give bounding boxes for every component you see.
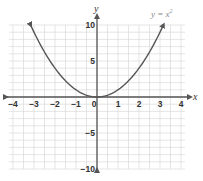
y-tick-label: 10 (86, 20, 96, 30)
x-axis-label: x (192, 91, 198, 102)
x-tick-label: 2 (137, 99, 142, 109)
x-tick-labels: −4−3−2−101234 (8, 99, 183, 109)
x-tick-label: 1 (116, 99, 121, 109)
y-axis-label: y (93, 3, 99, 14)
x-tick-label: −3 (29, 99, 39, 109)
x-tick-label: 4 (179, 99, 184, 109)
y-tick-label: −5 (85, 128, 95, 138)
y-tick-label: −10 (81, 164, 96, 174)
axes (6, 16, 190, 170)
x-tick-label: 0 (92, 99, 97, 109)
function-label: y = x2 (150, 8, 173, 19)
x-tick-label: −4 (8, 99, 18, 109)
x-tick-label: −2 (50, 99, 60, 109)
x-tick-label: 3 (158, 99, 163, 109)
x-tick-label: −1 (71, 99, 81, 109)
coordinate-plane: −4−3−2−101234 105−5−10 x y y = x2 (0, 0, 203, 181)
y-tick-label: 5 (90, 56, 95, 66)
